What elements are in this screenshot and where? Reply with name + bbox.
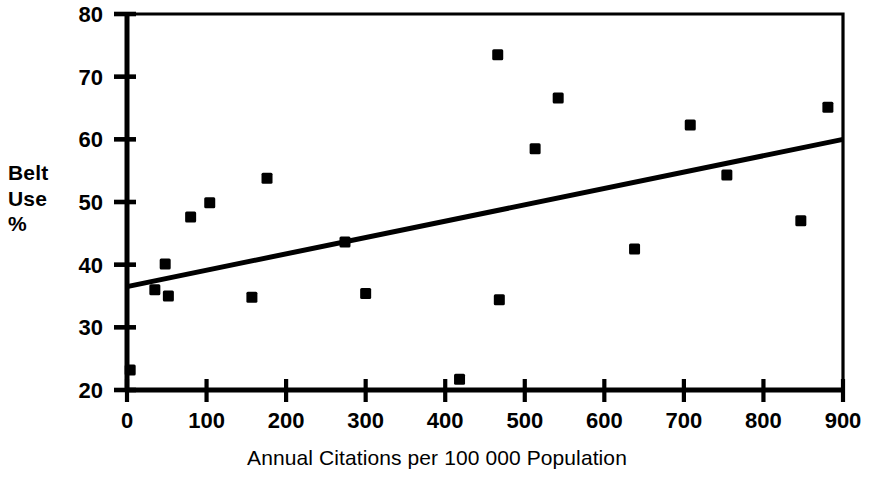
data-point (494, 294, 505, 305)
x-tick-label: 300 (347, 408, 384, 433)
data-point (149, 284, 160, 295)
data-point (262, 173, 273, 184)
data-point (360, 288, 371, 299)
x-axis-tick-labels: 0100200300400500600700800900 (121, 408, 861, 433)
y-axis-label-line-3: % (8, 211, 70, 237)
data-point (795, 215, 806, 226)
x-tick-label: 500 (506, 408, 543, 433)
x-axis-label: Annual Citations per 100 000 Population (0, 446, 874, 470)
y-axis-tick-labels: 20304050607080 (79, 2, 103, 403)
x-tick-label: 600 (586, 408, 623, 433)
y-tick-label: 50 (79, 190, 103, 215)
data-point (530, 143, 541, 154)
data-point (246, 292, 257, 303)
y-axis-label-line-1: Belt (8, 160, 70, 186)
y-tick-label: 80 (79, 2, 103, 27)
x-tick-label: 400 (427, 408, 464, 433)
x-tick-label: 100 (188, 408, 225, 433)
chart-canvas: 20304050607080 0100200300400500600700800… (0, 0, 874, 488)
data-point (163, 291, 174, 302)
data-point (685, 119, 696, 130)
x-tick-label: 900 (825, 408, 862, 433)
y-tick-label: 60 (79, 127, 103, 152)
data-point (160, 259, 171, 270)
plot-area-border (127, 14, 843, 390)
data-point (492, 49, 503, 60)
data-point (339, 237, 350, 248)
data-point (822, 102, 833, 113)
data-point (629, 244, 640, 255)
data-point (204, 197, 215, 208)
scatter-plot-figure: 20304050607080 0100200300400500600700800… (0, 0, 874, 488)
x-tick-label: 700 (666, 408, 703, 433)
x-tick-label: 0 (121, 408, 133, 433)
y-axis-label-line-2: Use (8, 186, 70, 212)
x-tick-label: 800 (745, 408, 782, 433)
data-point (125, 364, 136, 375)
plot-frame (127, 14, 843, 390)
x-tick-label: 200 (268, 408, 305, 433)
data-point (721, 170, 732, 181)
y-tick-label: 70 (79, 65, 103, 90)
y-tick-label: 20 (79, 378, 103, 403)
y-tick-label: 40 (79, 253, 103, 278)
y-tick-label: 30 (79, 315, 103, 340)
data-point (553, 92, 564, 103)
data-point (185, 212, 196, 223)
data-point (454, 374, 465, 385)
y-axis-label: Belt Use % (8, 160, 70, 237)
